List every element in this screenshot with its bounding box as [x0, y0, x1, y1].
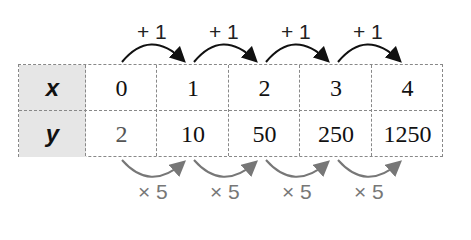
- bottom-arrow-icons: [122, 160, 399, 177]
- times-five-label: × 5: [354, 180, 384, 204]
- times-five-label: × 5: [138, 180, 168, 204]
- plus-one-label: + 1: [209, 20, 239, 44]
- top-arrow-icons: [122, 44, 399, 62]
- times-five-label: × 5: [210, 180, 240, 204]
- times-five-label: × 5: [282, 180, 312, 204]
- plus-one-label: + 1: [137, 20, 167, 44]
- plus-one-label: + 1: [281, 20, 311, 44]
- plus-one-label: + 1: [353, 20, 383, 44]
